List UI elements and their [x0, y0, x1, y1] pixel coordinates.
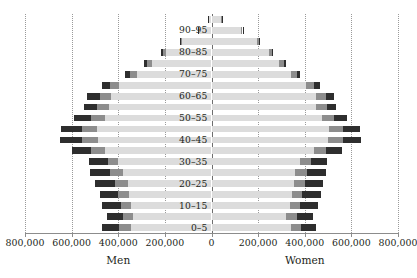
bar-segment-women-dark [305, 180, 324, 187]
bar-row [25, 104, 398, 111]
bar-segment-women-medium [316, 104, 326, 111]
bar-segment-women-dark [311, 158, 327, 165]
bar-segment-women-medium [329, 126, 343, 133]
bar-segment-men-light [119, 82, 211, 89]
bar-segment-women-light [212, 49, 269, 56]
age-label-90-95: 90–95 [164, 25, 208, 34]
bar-segment-men-dark [72, 147, 92, 154]
bar-segment-men-medium [130, 71, 137, 78]
bar-segment-women-medium [292, 191, 302, 198]
bar-segment-women-light [212, 213, 287, 220]
bar-segment-men-light [133, 213, 211, 220]
bar-segment-women-dark [343, 126, 359, 133]
bar-segment-men-medium [118, 191, 128, 198]
bar-segment-men-medium [91, 115, 105, 122]
bar-segment-women-dark [327, 104, 336, 111]
bar-segment-women-medium [314, 147, 326, 154]
bar-segment-women-medium [322, 115, 334, 122]
bar-row [25, 126, 398, 133]
bar-segment-women-dark [259, 38, 260, 45]
bar-segment-women-medium [290, 202, 300, 209]
bar-segment-women-medium [286, 213, 296, 220]
bar-row [25, 16, 398, 23]
bar-segment-women-medium [316, 93, 325, 100]
bar-segment-men-medium [100, 93, 112, 100]
bar-segment-women-light [212, 93, 317, 100]
bar-row [25, 93, 398, 100]
bar-segment-women-dark [314, 82, 320, 89]
bar-segment-women-medium [295, 169, 307, 176]
bar-row [25, 38, 398, 45]
bar-row [25, 71, 398, 78]
bar-segment-women-dark [297, 71, 300, 78]
bar-segment-men-medium [97, 104, 109, 111]
bar-segment-women-light [212, 191, 292, 198]
bar-segment-men-light [123, 169, 212, 176]
bar-segment-women-light [212, 115, 323, 122]
bar-segment-women-medium [300, 158, 310, 165]
bar-segment-men-medium [91, 147, 105, 154]
x-axis-tick-label: 800,000 [6, 238, 45, 247]
bar-segment-men-medium [147, 60, 152, 67]
bar-row [25, 191, 398, 198]
bar-row [25, 49, 398, 56]
bar-row [25, 60, 398, 67]
bar-segment-women-light [212, 60, 280, 67]
bar-segment-women-light [212, 71, 291, 78]
bar-segment-women-light [212, 104, 317, 111]
bar-segment-women-light [212, 147, 315, 154]
bar-segment-women-dark [300, 202, 317, 209]
bar-segment-men-dark [90, 169, 110, 176]
bar-segment-men-dark [61, 126, 82, 133]
bar-segment-men-medium [119, 224, 131, 231]
bar-row [25, 27, 398, 34]
bar-segment-women-dark [284, 60, 286, 67]
bar-segment-men-dark [102, 224, 119, 231]
bar-segment-women-medium [294, 180, 304, 187]
age-label-40-45: 40–45 [164, 135, 208, 144]
bar-segment-men-dark [95, 180, 115, 187]
age-label-10-15: 10–15 [164, 201, 208, 210]
bar-segment-women-light [212, 27, 242, 34]
bar-row [25, 82, 398, 89]
bar-segment-men-light [129, 191, 212, 198]
bar-row [25, 137, 398, 144]
axis-label-men: Men [106, 255, 130, 266]
age-label-0-5: 0–5 [164, 223, 208, 232]
bar-segment-women-dark [343, 137, 360, 144]
bar-segment-women-medium [291, 224, 301, 231]
bar-segment-men-dark [87, 93, 100, 100]
bar-segment-women-dark [301, 224, 316, 231]
bar-row [25, 169, 398, 176]
bar-segment-men-dark [144, 60, 147, 67]
bar-row [25, 213, 398, 220]
bar-segment-women-light [212, 82, 306, 89]
bar-row [25, 202, 398, 209]
bar-segment-women-light [212, 137, 329, 144]
bar-segment-women-dark [272, 49, 274, 56]
bar-segment-women-dark [307, 169, 326, 176]
x-axis-tick-label: 200,000 [239, 238, 278, 247]
x-axis-tick-label: 400,000 [99, 238, 138, 247]
x-axis-tick-label: 200,000 [145, 238, 184, 247]
bar-row [25, 115, 398, 122]
bar-segment-women-dark [326, 93, 334, 100]
bar-segment-men-dark [60, 137, 82, 144]
bar-row [25, 147, 398, 154]
bar-segment-men-light [182, 38, 211, 45]
bar-rows [25, 14, 398, 233]
bar-segment-men-light [152, 60, 211, 67]
bar-segment-women-dark [326, 147, 342, 154]
bar-segment-men-light [97, 126, 211, 133]
bar-segment-women-light [212, 126, 330, 133]
bar-segment-women-medium [306, 82, 314, 89]
bar-segment-men-dark [74, 115, 91, 122]
x-axis-tick-label: 600,000 [52, 238, 91, 247]
bar-segment-men-medium [123, 213, 133, 220]
x-axis-tick-label: 400,000 [285, 238, 324, 247]
bar-row [25, 180, 398, 187]
bar-segment-men-dark [180, 38, 181, 45]
bar-segment-women-light [212, 38, 257, 45]
bar-segment-men-medium [82, 137, 98, 144]
